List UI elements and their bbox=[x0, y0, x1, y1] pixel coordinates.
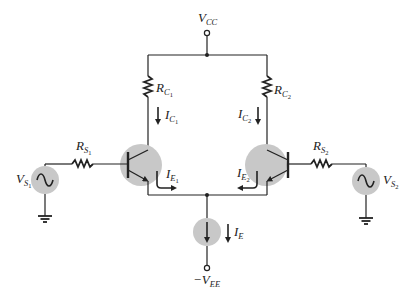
rc2-resistor bbox=[263, 55, 271, 150]
ie1-label: IE1 bbox=[165, 166, 179, 184]
ic1-label: IC1 bbox=[164, 107, 178, 125]
ie-label: IE bbox=[233, 224, 244, 241]
vcc-terminal bbox=[204, 30, 209, 57]
vcc-label: VCC bbox=[198, 10, 218, 27]
circuit-diagram: VCC RC1 IC1 RC2 IC2 bbox=[0, 0, 406, 296]
rs2-resistor bbox=[288, 160, 366, 167]
vs2-ac-source bbox=[352, 164, 380, 224]
rs1-label: RS1 bbox=[75, 138, 91, 156]
rc2-label: RC2 bbox=[273, 82, 291, 100]
ground-icon bbox=[359, 218, 373, 224]
vs1-ac-source bbox=[31, 164, 59, 222]
rs1-resistor bbox=[45, 160, 128, 167]
rc1-resistor bbox=[144, 55, 152, 150]
vee-terminal bbox=[204, 265, 209, 270]
ground-icon bbox=[38, 216, 52, 222]
vee-label: −VEE bbox=[193, 272, 221, 289]
ic2-label: IC2 bbox=[237, 106, 251, 124]
q1-npn-transistor-icon bbox=[120, 144, 162, 195]
vs1-label: VS1 bbox=[16, 171, 31, 189]
rc1-label: RC1 bbox=[155, 80, 173, 98]
rs2-label: RS2 bbox=[312, 138, 328, 156]
vs2-label: VS2 bbox=[383, 172, 398, 190]
current-source bbox=[193, 195, 221, 265]
